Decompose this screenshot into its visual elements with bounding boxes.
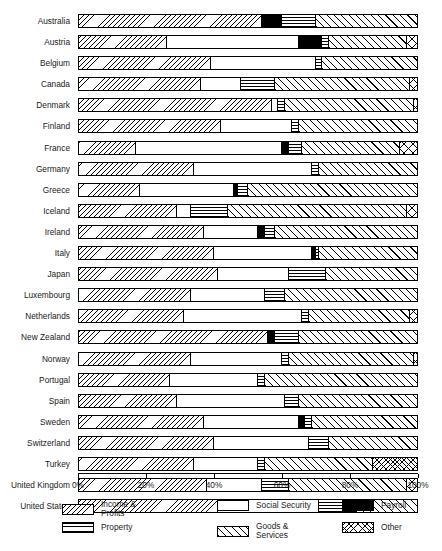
bar-segment-income — [79, 437, 214, 449]
stacked-bar-turkey — [78, 457, 418, 471]
bar-segment-property — [278, 99, 285, 111]
bar-segment-income — [79, 205, 177, 217]
bar-segment-income — [79, 99, 272, 111]
y-axis-label-finland: Finland — [0, 117, 72, 138]
bar-segment-property — [309, 437, 329, 449]
x-axis-tick — [418, 474, 419, 478]
bar-segment-property — [316, 57, 323, 69]
bar-segment-social — [204, 226, 258, 238]
bar-segment-goods — [316, 15, 417, 27]
bar-segment-income — [79, 15, 262, 27]
bar-segment-other — [407, 36, 417, 48]
bar-segment-income — [79, 247, 214, 259]
bar-segment-social — [211, 57, 316, 69]
bar-segment-social — [140, 184, 235, 196]
x-axis-tick — [146, 474, 147, 478]
stacked-bar-australia — [78, 14, 418, 28]
bar-row — [78, 75, 418, 96]
bar-segment-property — [289, 268, 326, 280]
bar-segment-social — [191, 353, 282, 365]
bar-segment-goods — [285, 289, 417, 301]
bar-segment-social — [221, 120, 292, 132]
stacked-bar-switzerland — [78, 436, 418, 450]
stacked-bar-spain — [78, 394, 418, 408]
bar-segment-property — [312, 163, 319, 175]
bar-segment-goods — [299, 395, 417, 407]
bar-row — [78, 392, 418, 413]
stacked-bar-ireland — [78, 225, 418, 239]
bar-segment-social — [170, 374, 258, 386]
bar-segment-income — [79, 142, 136, 154]
stacked-bar-new-zealand — [78, 330, 418, 344]
x-axis-tick — [214, 474, 215, 478]
bar-segment-other — [414, 353, 417, 365]
stacked-bar-norway — [78, 352, 418, 366]
bar-row — [78, 286, 418, 307]
y-axis-label-new-zealand: New Zealand — [0, 328, 72, 349]
bar-segment-social — [272, 99, 279, 111]
y-axis-country-labels: AustraliaAustriaBelgiumCanadaDenmarkFinl… — [0, 12, 72, 473]
bar-row — [78, 434, 418, 455]
bar-row — [78, 12, 418, 33]
bar-segment-income — [79, 331, 268, 343]
x-axis-tick-label: 100% — [388, 480, 442, 490]
bar-segment-income — [79, 395, 177, 407]
bar-segment-social — [201, 78, 242, 90]
bar-segment-income — [79, 374, 170, 386]
bar-segment-income — [79, 353, 191, 365]
legend-swatch-property — [62, 522, 94, 533]
y-axis-label-australia: Australia — [0, 12, 72, 33]
bar-row — [78, 371, 418, 392]
legend-label-other: Other — [381, 523, 402, 532]
bar-segment-income — [79, 57, 211, 69]
stacked-bar-japan — [78, 267, 418, 281]
bar-segment-social — [184, 310, 302, 322]
bar-segment-income — [79, 226, 204, 238]
bar-segment-income — [79, 310, 184, 322]
bar-segment-property — [282, 15, 316, 27]
legend-item-property: Property — [62, 522, 132, 533]
bar-segment-social — [191, 289, 265, 301]
bar-segment-social — [194, 458, 258, 470]
y-axis-label-germany: Germany — [0, 160, 72, 181]
bar-row — [78, 139, 418, 160]
bar-segment-payroll — [299, 36, 323, 48]
bar-segment-income — [79, 184, 140, 196]
bar-segment-income — [79, 458, 194, 470]
y-axis-label-spain: Spain — [0, 392, 72, 413]
bar-segment-goods — [289, 353, 414, 365]
x-axis-line — [78, 473, 418, 480]
legend-item-income: Income & Profits — [62, 500, 136, 518]
stacked-bar-denmark — [78, 98, 418, 112]
tax-composition-bar-chart: AustraliaAustriaBelgiumCanadaDenmarkFinl… — [0, 0, 442, 551]
bar-segment-goods — [299, 331, 417, 343]
y-axis-label-austria: Austria — [0, 33, 72, 54]
bar-segment-goods — [322, 57, 417, 69]
bar-segment-goods — [265, 458, 373, 470]
legend-item-goods: Goods & Services — [217, 522, 288, 540]
legend-item-other: Other — [342, 522, 402, 533]
bar-segment-social — [204, 416, 299, 428]
stacked-bar-germany — [78, 162, 418, 176]
bar-segment-social — [218, 268, 289, 280]
y-axis-label-norway: Norway — [0, 350, 72, 371]
bar-segment-income — [79, 289, 191, 301]
bar-segment-goods — [248, 184, 417, 196]
legend-item-payroll: Payroll — [342, 500, 406, 511]
x-axis-tick-labels: 0%20%40%60%80%100% — [48, 480, 442, 494]
stacked-bar-austria — [78, 35, 418, 49]
y-axis-label-turkey: Turkey — [0, 455, 72, 476]
legend-label-payroll: Payroll — [381, 501, 406, 510]
bar-segment-goods — [275, 78, 410, 90]
bar-segment-income — [79, 268, 218, 280]
y-axis-label-iceland: Iceland — [0, 202, 72, 223]
bar-row — [78, 223, 418, 244]
legend-swatch-payroll — [342, 500, 374, 511]
bar-segment-goods — [265, 374, 417, 386]
bar-row — [78, 202, 418, 223]
legend-swatch-other — [342, 522, 374, 533]
stacked-bar-iceland — [78, 204, 418, 218]
bar-segment-income — [79, 78, 201, 90]
y-axis-label-belgium: Belgium — [0, 54, 72, 75]
y-axis-label-denmark: Denmark — [0, 96, 72, 117]
